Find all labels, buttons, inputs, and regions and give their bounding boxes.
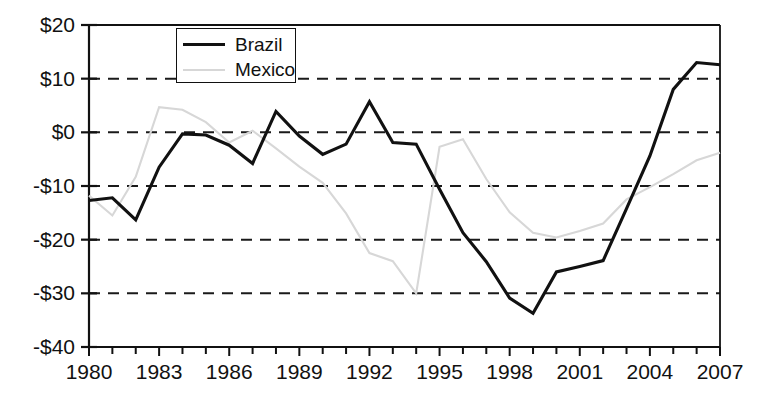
y-axis-tick-label: -$10 <box>33 175 75 196</box>
legend-swatch-icon <box>183 69 225 71</box>
x-axis-tick-label: 1986 <box>197 361 261 382</box>
x-axis-tick-label: 1995 <box>408 361 472 382</box>
x-axis-tick-label: 1980 <box>57 361 121 382</box>
x-axis-tick-label: 2001 <box>548 361 612 382</box>
x-axis-tick-label: 1983 <box>127 361 191 382</box>
y-axis-tick-label: -$30 <box>33 282 75 303</box>
y-axis-tick-label: -$40 <box>33 336 75 357</box>
legend-item-brazil: Brazil <box>183 35 283 54</box>
x-axis-tick-label: 1992 <box>337 361 401 382</box>
y-axis-tick-label: $20 <box>40 14 75 35</box>
x-axis-tick-label: 1989 <box>267 361 331 382</box>
legend-label: Brazil <box>235 35 283 54</box>
x-axis-tick-label: 2004 <box>618 361 682 382</box>
x-axis-tick-label: 1998 <box>478 361 542 382</box>
chart-container: $20$10$0-$10-$20-$30-$40 198019831986198… <box>0 0 760 403</box>
legend-label: Mexico <box>235 60 295 79</box>
legend-item-mexico: Mexico <box>183 60 295 79</box>
data-series <box>89 63 720 314</box>
legend-swatch-icon <box>183 43 225 46</box>
chart-plot-area <box>0 0 760 403</box>
y-axis-tick-label: $0 <box>52 121 75 142</box>
y-axis-tick-label: $10 <box>40 68 75 89</box>
x-axis-tick-label: 2007 <box>688 361 752 382</box>
legend: BrazilMexico <box>176 28 296 83</box>
x-axis-ticks <box>89 347 720 356</box>
y-axis-tick-label: -$20 <box>33 229 75 250</box>
